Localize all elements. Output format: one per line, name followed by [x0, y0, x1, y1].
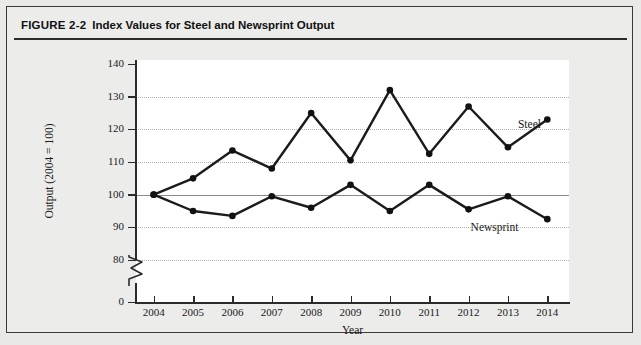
y-axis-tick-label: 110 [82, 155, 124, 167]
y-axis-tick [128, 129, 136, 131]
data-point [308, 204, 315, 211]
x-axis-tick [154, 296, 156, 303]
data-point [505, 193, 512, 200]
y-axis-tick [128, 162, 136, 164]
y-axis-tick [128, 194, 136, 196]
data-point [426, 151, 433, 158]
y-axis-tick-label: 90 [82, 220, 124, 232]
x-axis-tick [272, 296, 274, 303]
series-lines [14, 40, 627, 332]
y-axis-tick [128, 302, 136, 304]
x-axis-tick-label: 2014 [524, 306, 570, 318]
y-axis-tick-label: 100 [82, 188, 124, 200]
figure-caption: FIGURE 2-2Index Values for Steel and New… [21, 19, 334, 31]
y-axis-tick [128, 260, 136, 262]
data-point [268, 193, 275, 200]
y-axis-tick [128, 64, 136, 66]
y-axis-tick [128, 227, 136, 229]
data-point [544, 216, 551, 223]
x-axis-tick [547, 296, 549, 303]
data-point [505, 144, 512, 151]
data-point [465, 103, 472, 110]
x-axis-tick [508, 296, 510, 303]
series-label-newsprint: Newsprint [471, 221, 519, 233]
data-point [268, 165, 275, 172]
series-line-newsprint [154, 185, 548, 219]
data-point [387, 208, 394, 215]
figure-container: FIGURE 2-2Index Values for Steel and New… [6, 6, 633, 333]
x-axis-tick [351, 296, 353, 303]
data-point [150, 191, 157, 198]
y-axis-tick-label: 120 [82, 122, 124, 134]
data-point [347, 182, 354, 189]
figure-title: Index Values for Steel and Newsprint Out… [92, 19, 334, 31]
x-axis-tick [469, 296, 471, 303]
x-axis-tick [193, 296, 195, 303]
x-axis-tick [390, 296, 392, 303]
data-point [347, 157, 354, 164]
figure-number: FIGURE 2-2 [21, 19, 86, 31]
data-point [229, 213, 236, 220]
y-axis-tick-label: 80 [82, 253, 124, 265]
y-axis-tick-label: 130 [82, 90, 124, 102]
data-point [387, 87, 394, 94]
y-axis-tick-label: 140 [82, 57, 124, 69]
data-point [426, 182, 433, 189]
x-axis-tick [232, 296, 234, 303]
x-axis-tick [429, 296, 431, 303]
series-label-steel: Steel [518, 118, 541, 130]
data-point [308, 110, 315, 117]
y-axis-tick-label: 0 [82, 295, 124, 307]
data-point [190, 208, 197, 215]
y-axis-tick [128, 96, 136, 98]
data-point [229, 147, 236, 154]
series-line-steel [154, 90, 548, 195]
data-point [190, 175, 197, 182]
data-point [544, 116, 551, 123]
line-chart: Output (2004 = 100) Year Steel Newsprint… [14, 40, 627, 332]
x-axis-tick [311, 296, 313, 303]
data-point [465, 206, 472, 213]
